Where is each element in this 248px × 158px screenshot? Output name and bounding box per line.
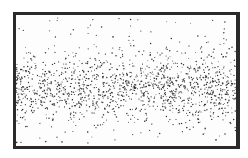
figure-frame (13, 12, 240, 149)
dot-field (16, 15, 236, 146)
